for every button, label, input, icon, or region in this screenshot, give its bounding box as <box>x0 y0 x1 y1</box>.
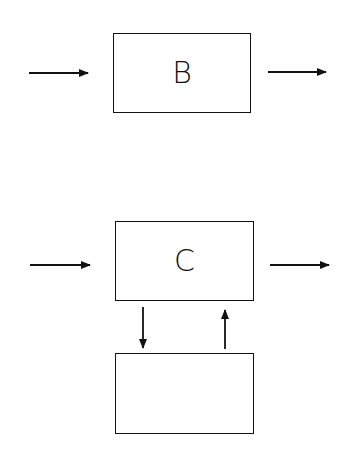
block-c-label: C <box>174 246 195 276</box>
block-b: B <box>113 33 251 113</box>
block-c: C <box>115 221 254 301</box>
feedback-block <box>115 353 254 434</box>
block-b-label: B <box>172 58 192 88</box>
